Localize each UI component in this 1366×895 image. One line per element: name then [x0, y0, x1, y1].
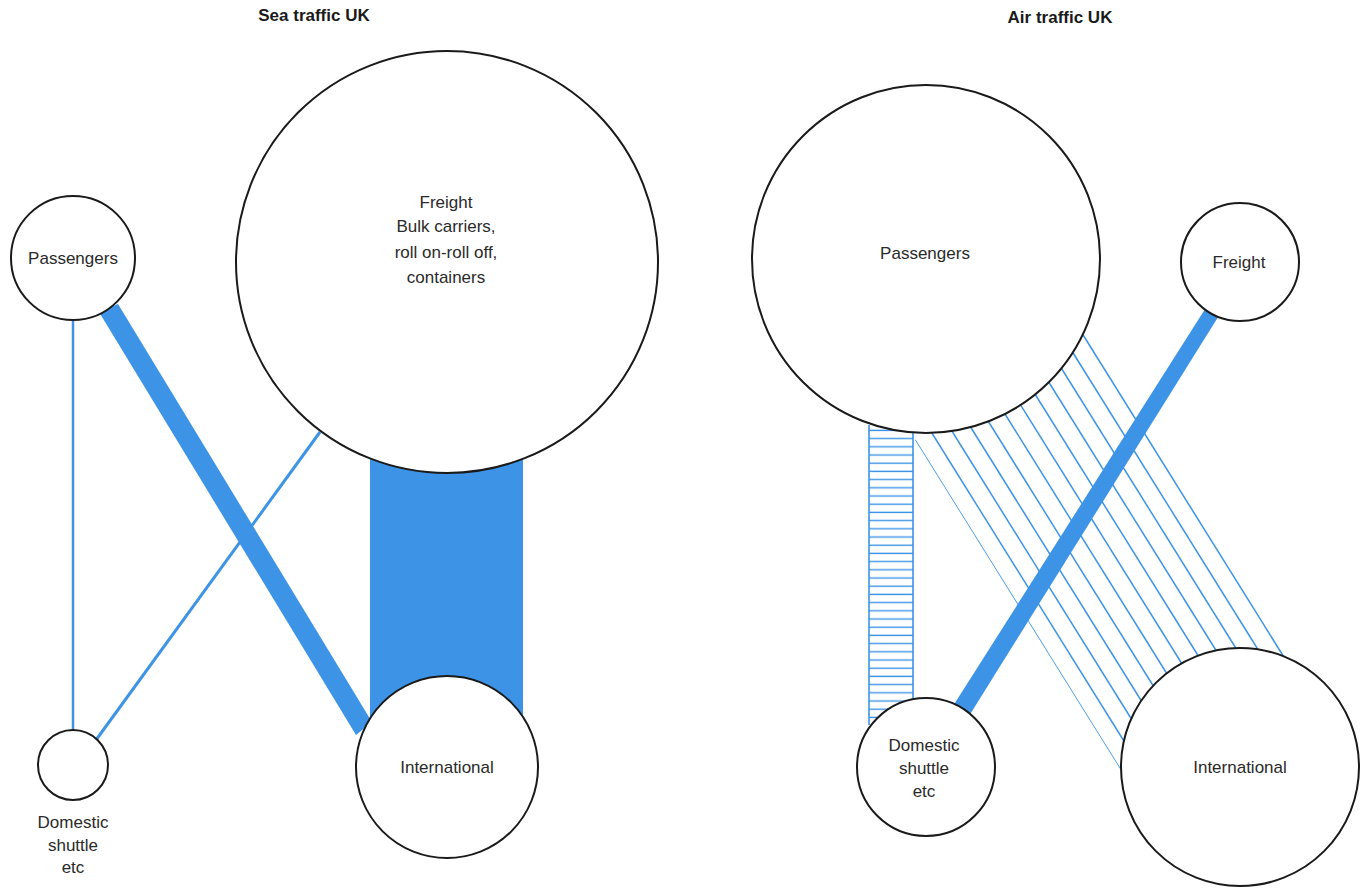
air-passengers-label: Passengers: [880, 244, 970, 263]
flow-air-passengers-domestic: [869, 425, 913, 725]
air-domestic-label-line2: shuttle: [899, 759, 949, 778]
traffic-diagram: Sea traffic UK Passengers Freight Bulk c…: [0, 0, 1366, 895]
air-traffic-diagram: Air traffic UK Passengers: [752, 8, 1359, 886]
sea-traffic-title: Sea traffic UK: [258, 6, 370, 25]
sea-domestic-label-line1: Domestic: [38, 813, 109, 832]
air-international-label: International: [1193, 758, 1287, 777]
sea-freight-node: [236, 51, 658, 473]
sea-traffic-diagram: Sea traffic UK Passengers Freight Bulk c…: [11, 6, 658, 877]
sea-freight-label-line2: Bulk carriers,: [396, 217, 495, 236]
air-domestic-label-line1: Domestic: [889, 736, 960, 755]
sea-freight-label-line3: roll on-roll off,: [395, 243, 498, 262]
sea-freight-label-line4: containers: [407, 268, 485, 287]
sea-domestic-node: [38, 730, 108, 800]
air-domestic-label-line3: etc: [913, 782, 936, 801]
sea-domestic-label-line3: etc: [62, 858, 85, 877]
sea-freight-label-line1: Freight: [420, 193, 473, 212]
sea-domestic-label-line2: shuttle: [48, 836, 98, 855]
sea-passengers-label: Passengers: [28, 249, 118, 268]
air-traffic-title: Air traffic UK: [1008, 8, 1114, 27]
air-freight-label: Freight: [1213, 253, 1266, 272]
sea-international-label: International: [400, 758, 494, 777]
